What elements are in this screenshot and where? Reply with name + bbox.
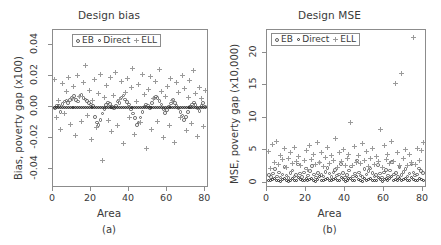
- point-ell: [191, 68, 196, 73]
- point-ell: [121, 141, 126, 146]
- y-tick-mark: [48, 137, 52, 138]
- y-tick-label: 5: [247, 136, 258, 162]
- point-ell: [399, 71, 404, 76]
- point-ell: [111, 93, 116, 98]
- point-ell: [62, 111, 67, 116]
- point-ell: [89, 137, 94, 142]
- point-ell: [274, 139, 279, 144]
- y-tick-mark: [48, 44, 52, 45]
- point-ell: [146, 87, 151, 92]
- legend-label-eb: EB: [82, 36, 94, 45]
- point-ell: [201, 124, 206, 129]
- y-tick-label: -0.04: [28, 151, 39, 185]
- point-ell: [305, 167, 310, 172]
- x-tick-mark: [204, 187, 205, 191]
- point-direct: [422, 179, 425, 182]
- point-ell: [286, 156, 291, 161]
- point-ell: [165, 84, 170, 89]
- x-tick-mark: [128, 187, 129, 191]
- x-tick-mark: [52, 187, 53, 191]
- x-tick-label: 0: [39, 192, 65, 203]
- point-ell: [138, 120, 143, 125]
- x-tick-mark: [266, 187, 267, 191]
- point-ell: [378, 127, 383, 132]
- point-direct: [204, 106, 207, 109]
- point-ell: [366, 164, 371, 169]
- point-eb: [186, 110, 190, 114]
- point-ell: [352, 144, 357, 149]
- point-ell: [77, 94, 82, 99]
- point-ell: [167, 123, 172, 128]
- point-ell: [70, 96, 75, 101]
- x-tick-label: 40: [331, 192, 357, 203]
- open-circle-icon: [275, 38, 279, 42]
- point-ell: [413, 162, 418, 167]
- y-tick-label: 0.02: [28, 58, 39, 92]
- panel-tag-a: (a): [0, 224, 218, 235]
- point-direct: [318, 175, 321, 178]
- plus-icon: [333, 37, 338, 42]
- point-ell: [325, 145, 330, 150]
- y-tick-label: 0.00: [28, 89, 39, 123]
- point-ell: [113, 70, 118, 75]
- point-ell: [85, 113, 90, 118]
- point-ell: [58, 127, 63, 132]
- y-tick-label: -0.02: [28, 120, 39, 154]
- point-ell: [90, 98, 95, 103]
- y-tick-label: 15: [247, 71, 258, 97]
- y-axis-title-a: Bias, poverty gap (x100): [13, 56, 24, 180]
- legend-label-direct: Direct: [103, 36, 130, 45]
- point-ell: [73, 133, 78, 138]
- x-tick-label: 0: [253, 192, 279, 203]
- point-ell: [186, 95, 191, 100]
- point-ell: [199, 96, 204, 101]
- x-tick-mark: [305, 187, 306, 191]
- point-ell: [323, 155, 328, 160]
- point-ell: [56, 98, 61, 103]
- point-ell: [71, 84, 76, 89]
- point-ell: [421, 140, 426, 145]
- point-eb: [408, 172, 412, 176]
- point-ell: [106, 118, 111, 123]
- point-ell: [370, 146, 375, 151]
- x-axis-title-b: Area: [218, 207, 441, 219]
- y-axis-title-b: MSE, poverty gap (x10,000): [229, 44, 240, 184]
- x-tick-mark: [166, 187, 167, 191]
- point-ell: [100, 158, 105, 163]
- point-eb: [281, 173, 285, 177]
- point-direct: [361, 180, 364, 183]
- point-ell: [184, 128, 189, 133]
- point-ell: [104, 83, 109, 88]
- point-ell: [401, 156, 406, 161]
- x-tick-label: 80: [191, 192, 217, 203]
- open-circle-icon: [76, 39, 80, 43]
- point-ell: [307, 143, 312, 148]
- point-ell: [193, 91, 198, 96]
- y-tick-label: 0: [247, 168, 258, 194]
- legend-label-ell: ELL: [141, 36, 157, 45]
- point-ell: [79, 119, 84, 124]
- filled-circle-icon: [98, 39, 101, 42]
- point-ell: [187, 78, 192, 83]
- point-ell: [142, 92, 147, 97]
- point-eb: [345, 173, 349, 177]
- point-ell: [288, 150, 293, 155]
- point-ell: [52, 77, 57, 82]
- panel-title-a: Design bias: [0, 9, 218, 21]
- point-ell: [266, 149, 271, 154]
- point-ell: [382, 143, 387, 148]
- y-tick-mark: [48, 168, 52, 169]
- point-ell: [302, 158, 307, 163]
- point-ell: [153, 79, 158, 84]
- plus-icon: [134, 38, 139, 43]
- point-ell: [127, 115, 132, 120]
- point-ell: [60, 81, 65, 86]
- point-ell: [176, 90, 181, 95]
- point-ell: [132, 132, 137, 137]
- x-tick-mark: [344, 187, 345, 191]
- point-eb: [271, 172, 275, 176]
- panel-design-bias: Design bias Bias, poverty gap (x100) EB …: [0, 0, 218, 245]
- legend-entry-eb: EB: [275, 35, 293, 44]
- point-eb: [133, 116, 137, 120]
- panel-tag-b: (b): [218, 224, 441, 235]
